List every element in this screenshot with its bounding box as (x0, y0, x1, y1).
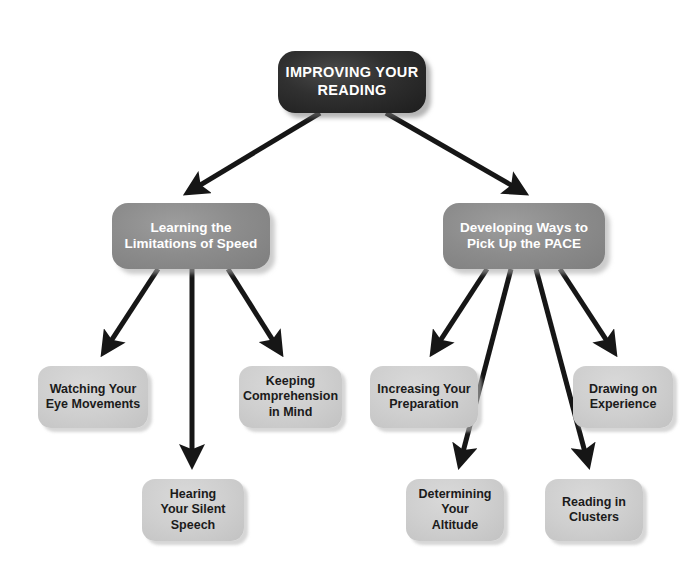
node-label-leaf-determining-altitude: Determining Your Altitude (413, 487, 498, 533)
edge-group (105, 113, 613, 462)
node-label-leaf-increasing-preparation: Increasing Your Preparation (371, 382, 476, 413)
node-label-root: IMPROVING YOUR READING (280, 64, 425, 99)
node-branch-left[interactable]: Learning the Limitations of Speed (112, 203, 270, 269)
edge-root-to-branch-right (386, 113, 522, 192)
node-label-leaf-hearing-silent-speech: Hearing Your Silent Speech (154, 487, 231, 533)
node-leaf-watching-eye-movements[interactable]: Watching Your Eye Movements (38, 366, 148, 428)
edge-branch-left-to-keeping (228, 269, 279, 350)
node-label-leaf-drawing-on-experience: Drawing on Experience (583, 382, 663, 413)
node-leaf-hearing-silent-speech[interactable]: Hearing Your Silent Speech (142, 479, 244, 541)
node-root[interactable]: IMPROVING YOUR READING (278, 51, 426, 113)
node-label-leaf-watching-eye-movements: Watching Your Eye Movements (40, 382, 146, 413)
node-label-branch-right: Developing Ways to Pick Up the PACE (454, 220, 594, 253)
node-label-branch-left: Learning the Limitations of Speed (119, 220, 264, 253)
node-leaf-increasing-preparation[interactable]: Increasing Your Preparation (370, 366, 478, 428)
node-label-leaf-keeping-comprehension: Keeping Comprehension in Mind (237, 374, 344, 420)
node-label-leaf-reading-in-clusters: Reading in Clusters (556, 495, 632, 526)
edge-branch-right-to-reading (536, 269, 588, 462)
node-leaf-keeping-comprehension[interactable]: Keeping Comprehension in Mind (239, 366, 342, 428)
node-leaf-determining-altitude[interactable]: Determining Your Altitude (406, 479, 504, 541)
node-leaf-drawing-on-experience[interactable]: Drawing on Experience (573, 366, 673, 428)
node-branch-right[interactable]: Developing Ways to Pick Up the PACE (443, 203, 605, 269)
node-leaf-reading-in-clusters[interactable]: Reading in Clusters (545, 479, 643, 541)
diagram-canvas: IMPROVING YOUR READINGLearning the Limit… (0, 0, 699, 569)
edge-branch-right-to-increasing (434, 269, 487, 350)
edge-root-to-branch-left (190, 113, 320, 191)
edge-branch-left-to-watching (105, 269, 158, 350)
edge-branch-right-to-drawing (560, 269, 613, 350)
